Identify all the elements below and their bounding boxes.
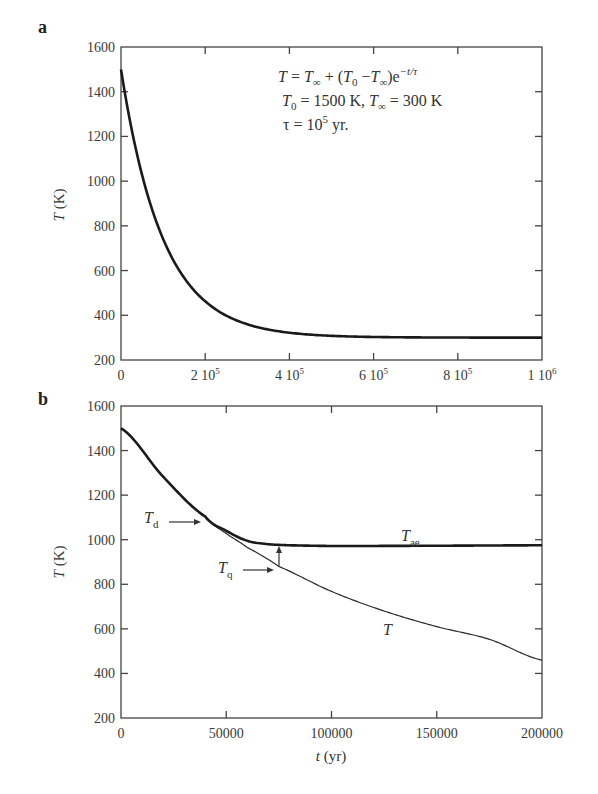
y-tick-label: 600	[94, 264, 115, 279]
x-tick-label: 0	[118, 368, 125, 383]
panel-b-x-axis-title: t (yr)	[316, 748, 346, 765]
y-tick-label: 1000	[87, 174, 115, 189]
panel-b: b 2004006008001000120014001600 050000100…	[38, 389, 563, 765]
y-tick-label: 200	[94, 353, 115, 368]
y-tick-label: 1600	[87, 40, 115, 55]
panel-a-equation: T = T∞ + (T0 −T∞)e−t/τ T0 = 1500 K, T∞ =…	[278, 65, 443, 134]
x-tick-label: 6 105	[359, 366, 389, 383]
panel-a-y-axis-title: T (K)	[51, 189, 68, 222]
panel-b-label: b	[38, 389, 48, 409]
y-tick-label: 800	[94, 577, 115, 592]
x-tick-label: 0	[118, 726, 125, 741]
label-T: T	[383, 621, 393, 638]
x-tick-label: 8 105	[443, 366, 473, 383]
x-tick-label: 200000	[521, 726, 563, 741]
arrow-Tq-to-Tae	[276, 546, 282, 567]
y-tick-label: 800	[94, 219, 115, 234]
equation-line-1: T = T∞ + (T0 −T∞)e−t/τ	[278, 65, 418, 88]
panel-a-label: a	[38, 17, 47, 37]
panel-b-plot-frame	[121, 406, 542, 718]
x-tick-label: 100000	[311, 726, 353, 741]
y-tick-label: 400	[94, 666, 115, 681]
panel-a-curve-T	[121, 69, 542, 337]
label-Tq: Tq	[218, 559, 274, 580]
arrowhead-Tq-icon	[267, 567, 274, 573]
x-tick-label: 4 105	[275, 366, 305, 383]
x-tick-label: 1 106	[528, 366, 558, 383]
y-tick-label: 1200	[87, 488, 115, 503]
arrowhead-up-icon	[276, 546, 282, 553]
label-Td: Td	[144, 509, 201, 530]
svg-text:Td: Td	[144, 509, 159, 530]
y-tick-label: 400	[94, 308, 115, 323]
arrowhead-Td-icon	[194, 519, 201, 525]
equation-line-2: T0 = 1500 K, T∞ = 300 K	[282, 92, 443, 112]
x-tick-label: 50000	[209, 726, 244, 741]
panel-a: a 2004006008001000120014001600 02 1054 1…	[38, 17, 557, 383]
y-tick-label: 1000	[87, 533, 115, 548]
y-tick-label: 1400	[87, 444, 115, 459]
y-tick-label: 1400	[87, 85, 115, 100]
svg-text:Tq: Tq	[218, 559, 233, 580]
panel-b-y-axis: 2004006008001000120014001600	[87, 399, 542, 726]
y-tick-label: 200	[94, 711, 115, 726]
figure: a 2004006008001000120014001600 02 1054 1…	[0, 0, 598, 794]
panel-a-y-axis: 2004006008001000120014001600	[87, 40, 542, 368]
panel-b-y-axis-title: T (K)	[51, 546, 68, 579]
x-tick-label: 150000	[416, 726, 458, 741]
y-tick-label: 600	[94, 622, 115, 637]
panel-b-x-axis: 050000100000150000200000	[118, 406, 564, 741]
y-tick-label: 1600	[87, 399, 115, 414]
equation-line-3: τ = 105 yr.	[283, 113, 348, 134]
panel-b-curve-Tae	[121, 428, 542, 546]
panel-b-curve-T	[121, 428, 542, 660]
y-tick-label: 1200	[87, 129, 115, 144]
x-tick-label: 2 105	[191, 366, 221, 383]
